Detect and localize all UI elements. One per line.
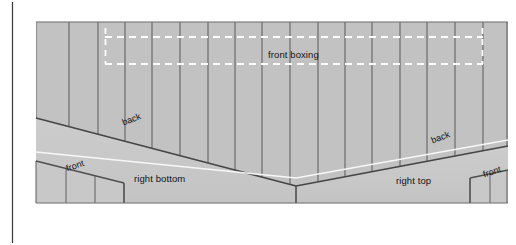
label-right-bottom: right bottom — [134, 174, 185, 184]
elevation-drawing — [0, 0, 516, 245]
diagram-canvas: front boxing right bottom right top back… — [0, 0, 516, 245]
label-front-boxing: front boxing — [268, 50, 319, 60]
label-right-top: right top — [396, 176, 431, 186]
